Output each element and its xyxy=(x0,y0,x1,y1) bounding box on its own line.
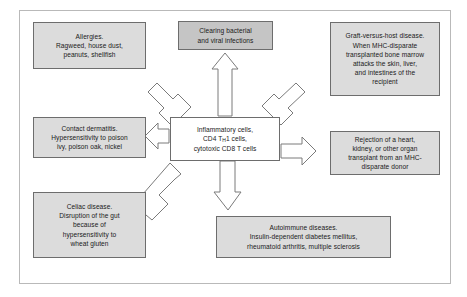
allergies-line-1: Allergies. xyxy=(37,32,142,41)
clearing-infections-box: Clearing bacterial and viral infections xyxy=(178,21,273,50)
celiac-line-3: because of xyxy=(37,220,142,229)
diagram-canvas: Allergies. Ragweed, house dust, peanuts,… xyxy=(0,0,467,297)
rejection-line-2: kidney, or other organ xyxy=(334,144,436,153)
contact-line-2: Hypersensitivity to poison xyxy=(37,133,142,142)
celiac-line-1: Celiac disease. xyxy=(37,202,142,211)
inflammatory-cells-box: Inflammatory cells, CD4 TH1 cells, cytot… xyxy=(170,117,280,161)
celiac-disease-box: Celiac disease. Disruption of the gut be… xyxy=(33,192,146,258)
celiac-line-5: wheat gluten xyxy=(37,239,142,248)
gvhd-line-3: transplanted bone marrow xyxy=(334,50,436,59)
celiac-line-2: Disruption of the gut xyxy=(37,211,142,220)
gvhd-line-4: attacks the skin, liver, xyxy=(334,59,436,68)
autoimmune-line-3: rheumatoid arthritis, multiple sclerosis xyxy=(220,242,387,251)
gvhd-line-2: When MHC-disparate xyxy=(334,41,436,50)
rejection-line-3: transplant from an MHC- xyxy=(334,153,436,162)
arrow-to-clearing xyxy=(212,53,238,116)
arrow-to-autoimmune xyxy=(214,161,241,210)
allergies-line-2: Ragweed, house dust, xyxy=(37,41,142,50)
arrow-to-rejection xyxy=(281,137,316,165)
center-line-3: cytotoxic CD8 T cells xyxy=(174,144,276,153)
arrow-to-contact xyxy=(145,123,169,149)
autoimmune-diseases-box: Autoimmune diseases. Insulin-dependent d… xyxy=(216,216,391,258)
autoimmune-line-2: Insulin-dependent diabetes mellitus, xyxy=(220,232,387,241)
gvhd-line-5: and intestines of the xyxy=(334,68,436,77)
rejection-line-4: disparate donor xyxy=(334,162,436,171)
center-line-2-post: 1 cells, xyxy=(226,135,247,142)
gvhd-line-6: recipient xyxy=(334,77,436,86)
contact-line-3: ivy, poison oak, nickel xyxy=(37,142,142,151)
contact-line-1: Contact dermatitis. xyxy=(37,124,142,133)
center-line-1: Inflammatory cells, xyxy=(174,125,276,134)
gvhd-line-1: Graft-versus-host disease. xyxy=(334,31,436,40)
autoimmune-line-1: Autoimmune diseases. xyxy=(220,223,387,232)
celiac-line-4: hypersensitivity to xyxy=(37,230,142,239)
graft-versus-host-box: Graft-versus-host disease. When MHC-disp… xyxy=(330,22,440,96)
allergies-line-3: peanuts, shellfish xyxy=(37,50,142,59)
center-line-2: CD4 TH1 cells, xyxy=(174,134,276,144)
center-line-2-pre: CD4 T xyxy=(203,135,222,142)
clearing-line-2: and viral infections xyxy=(182,36,269,45)
transplant-rejection-box: Rejection of a heart, kidney, or other o… xyxy=(330,131,440,175)
contact-dermatitis-box: Contact dermatitis. Hypersensitivity to … xyxy=(33,117,146,158)
clearing-line-1: Clearing bacterial xyxy=(182,26,269,35)
rejection-line-1: Rejection of a heart, xyxy=(334,135,436,144)
center-line-2-subscript: H xyxy=(222,137,226,143)
allergies-box: Allergies. Ragweed, house dust, peanuts,… xyxy=(33,22,146,69)
